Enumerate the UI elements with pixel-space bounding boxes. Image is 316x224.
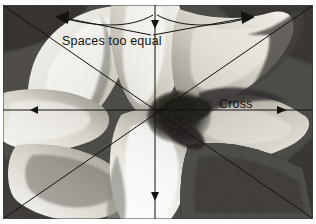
annotation-spaces-too-equal: Spaces too equal — [62, 34, 162, 48]
annotation-cross: Cross — [219, 97, 253, 111]
figure-stage: Spaces too equal Cross — [0, 0, 316, 224]
